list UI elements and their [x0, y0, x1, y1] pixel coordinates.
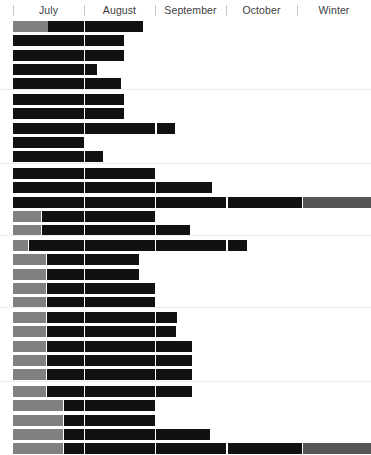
bar-segment[interactable]	[156, 429, 210, 440]
bar-segment[interactable]	[13, 369, 46, 380]
bar-row[interactable]	[0, 182, 371, 193]
bar-row[interactable]	[0, 312, 371, 323]
bar-segment[interactable]	[156, 326, 176, 337]
bar-segment[interactable]	[85, 415, 155, 426]
bar-segment[interactable]	[47, 386, 84, 397]
bar-segment[interactable]	[13, 123, 84, 134]
bar-segment[interactable]	[85, 269, 139, 280]
bar-segment[interactable]	[85, 341, 155, 352]
bar-row[interactable]	[0, 443, 371, 454]
bar-segment[interactable]	[85, 21, 143, 32]
bar-segment[interactable]	[42, 211, 84, 222]
bar-row[interactable]	[0, 35, 371, 46]
bar-segment[interactable]	[85, 429, 155, 440]
bar-segment[interactable]	[85, 355, 155, 366]
bar-segment[interactable]	[156, 197, 226, 208]
bar-segment[interactable]	[156, 369, 192, 380]
bar-segment[interactable]	[13, 326, 46, 337]
bar-segment[interactable]	[85, 64, 97, 75]
bar-segment[interactable]	[47, 341, 84, 352]
bar-segment[interactable]	[228, 197, 302, 208]
bar-segment[interactable]	[85, 254, 139, 265]
bar-row[interactable]	[0, 355, 371, 366]
bar-row[interactable]	[0, 211, 371, 222]
bar-segment[interactable]	[64, 400, 84, 411]
bar-segment[interactable]	[85, 197, 155, 208]
bar-segment[interactable]	[85, 168, 155, 179]
bar-segment[interactable]	[13, 211, 41, 222]
bar-segment[interactable]	[13, 50, 84, 61]
bar-segment[interactable]	[47, 283, 84, 294]
bar-segment[interactable]	[85, 211, 155, 222]
bar-row[interactable]	[0, 94, 371, 105]
bar-segment[interactable]	[47, 269, 84, 280]
bar-segment[interactable]	[85, 50, 124, 61]
bar-row[interactable]	[0, 151, 371, 162]
bar-segment[interactable]	[228, 443, 302, 454]
bar-segment[interactable]	[85, 151, 103, 162]
bar-segment[interactable]	[156, 182, 212, 193]
bar-segment[interactable]	[13, 137, 84, 148]
bar-segment[interactable]	[156, 312, 177, 323]
bar-row[interactable]	[0, 123, 371, 134]
bar-row[interactable]	[0, 21, 371, 32]
bar-segment[interactable]	[29, 240, 84, 251]
bar-segment[interactable]	[156, 240, 226, 251]
bar-segment[interactable]	[303, 197, 371, 208]
bar-segment[interactable]	[13, 283, 46, 294]
bar-row[interactable]	[0, 197, 371, 208]
bar-row[interactable]	[0, 326, 371, 337]
bar-segment[interactable]	[47, 254, 84, 265]
bar-segment[interactable]	[13, 108, 84, 119]
bar-segment[interactable]	[85, 182, 155, 193]
bar-segment[interactable]	[13, 254, 46, 265]
bar-segment[interactable]	[13, 197, 84, 208]
bar-segment[interactable]	[156, 386, 192, 397]
bar-segment[interactable]	[47, 326, 84, 337]
bar-segment[interactable]	[85, 108, 124, 119]
bar-segment[interactable]	[48, 21, 84, 32]
bar-row[interactable]	[0, 168, 371, 179]
bar-segment[interactable]	[13, 386, 46, 397]
bar-segment[interactable]	[85, 283, 155, 294]
bar-segment[interactable]	[47, 312, 84, 323]
bar-row[interactable]	[0, 254, 371, 265]
bar-row[interactable]	[0, 108, 371, 119]
bar-segment[interactable]	[13, 269, 46, 280]
bar-row[interactable]	[0, 137, 371, 148]
bar-segment[interactable]	[13, 182, 84, 193]
bar-segment[interactable]	[13, 355, 46, 366]
bar-segment[interactable]	[47, 369, 84, 380]
bar-segment[interactable]	[85, 400, 155, 411]
bar-segment[interactable]	[85, 240, 155, 251]
bar-segment[interactable]	[13, 443, 63, 454]
bar-row[interactable]	[0, 415, 371, 426]
bar-segment[interactable]	[13, 429, 63, 440]
bar-segment[interactable]	[64, 443, 84, 454]
bar-segment[interactable]	[13, 35, 84, 46]
bar-row[interactable]	[0, 386, 371, 397]
bar-segment[interactable]	[47, 355, 84, 366]
bar-segment[interactable]	[85, 312, 155, 323]
bar-segment[interactable]	[13, 21, 48, 32]
bar-segment[interactable]	[303, 443, 371, 454]
bar-segment[interactable]	[13, 151, 84, 162]
bar-row[interactable]	[0, 283, 371, 294]
bar-segment[interactable]	[13, 94, 84, 105]
bar-segment[interactable]	[64, 429, 84, 440]
bar-row[interactable]	[0, 341, 371, 352]
bar-row[interactable]	[0, 78, 371, 89]
bar-segment[interactable]	[157, 123, 175, 134]
bar-segment[interactable]	[85, 94, 124, 105]
bar-row[interactable]	[0, 369, 371, 380]
bar-segment[interactable]	[228, 240, 247, 251]
bar-segment[interactable]	[85, 326, 155, 337]
bar-segment[interactable]	[13, 312, 46, 323]
bar-segment[interactable]	[85, 369, 155, 380]
bar-segment[interactable]	[13, 400, 63, 411]
bar-segment[interactable]	[13, 168, 84, 179]
bar-row[interactable]	[0, 64, 371, 75]
bar-segment[interactable]	[13, 341, 46, 352]
bar-row[interactable]	[0, 429, 371, 440]
bar-segment[interactable]	[13, 78, 84, 89]
